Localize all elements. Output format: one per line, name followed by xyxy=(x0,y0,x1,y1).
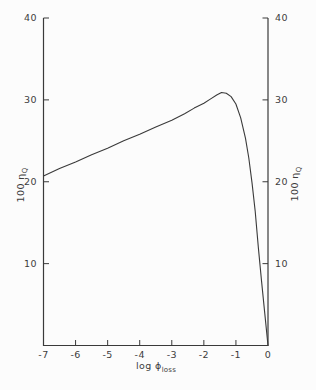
x-axis-label-sub: loss xyxy=(162,366,176,374)
axes-frame xyxy=(44,18,269,346)
y-axis-label-right: 100 ηQ xyxy=(289,167,303,202)
x-tick-label: -1 xyxy=(231,349,241,360)
quantum-yield-chart: 1010202030304040-7-6-5-4-3-2-10 100 ηQ 1… xyxy=(0,0,316,390)
y-tick-label-left: 10 xyxy=(24,258,37,269)
x-tick-label: -6 xyxy=(70,349,80,360)
x-tick-label: -4 xyxy=(135,349,145,360)
y-axis-label-left: 100 ηQ xyxy=(15,168,29,203)
y-tick-label-right: 10 xyxy=(275,258,288,269)
x-tick-label: -2 xyxy=(199,349,209,360)
x-tick-label: -5 xyxy=(103,349,113,360)
y-axis-label-right-text: 100 η xyxy=(289,172,300,201)
y-tick-label-right: 40 xyxy=(275,12,288,23)
x-axis-label-text: log ϕ xyxy=(136,360,162,371)
y-axis-label-left-text: 100 η xyxy=(15,173,26,202)
x-tick-label: -7 xyxy=(38,349,48,360)
y-tick-label-right: 30 xyxy=(275,94,288,105)
x-tick-label: -3 xyxy=(167,349,177,360)
y-axis-label-right-sub: Q xyxy=(295,167,303,173)
tick-marks xyxy=(44,18,269,346)
y-tick-label-right: 20 xyxy=(275,176,288,187)
y-tick-label-left: 40 xyxy=(24,12,37,23)
chart-canvas: 1010202030304040-7-6-5-4-3-2-10 xyxy=(0,0,316,390)
y-axis-label-left-sub: Q xyxy=(21,168,29,174)
x-axis-label: log ϕloss xyxy=(136,360,176,374)
y-tick-label-left: 30 xyxy=(24,94,37,105)
x-tick-label: 0 xyxy=(265,349,271,360)
data-curve xyxy=(44,93,269,346)
